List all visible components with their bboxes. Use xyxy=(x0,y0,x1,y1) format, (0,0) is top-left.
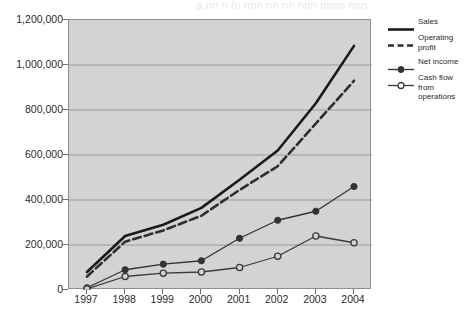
data-point-marker xyxy=(198,269,204,275)
legend-swatch-cash-flow-from-operations xyxy=(388,76,414,85)
legend-label: Net income xyxy=(418,57,470,67)
plot-svg xyxy=(69,20,372,290)
data-point-marker xyxy=(122,267,128,273)
data-point-marker xyxy=(160,270,166,276)
data-point-marker xyxy=(275,217,281,223)
y-axis-tick-label: 400,000 xyxy=(0,194,63,204)
x-axis-tick-label: 2004 xyxy=(328,293,378,305)
chart-legend: SalesOperating profitNet incomeCash flow… xyxy=(388,17,470,107)
y-axis-tick-label: 200,000 xyxy=(0,239,63,249)
legend-label: Operating profit xyxy=(418,33,470,52)
data-point-marker xyxy=(351,183,357,189)
data-point-marker xyxy=(236,264,242,270)
legend-swatch-operating-profit xyxy=(388,36,414,45)
data-point-marker xyxy=(198,258,204,264)
y-axis-tick-label: 800,000 xyxy=(0,104,63,114)
legend-item: Operating profit xyxy=(388,33,470,52)
data-point-marker xyxy=(313,233,319,239)
legend-label: Sales xyxy=(418,17,470,27)
data-point-marker xyxy=(275,253,281,259)
legend-item: Net income xyxy=(388,57,470,68)
y-axis-tick-labels: 0200,000400,000600,000800,0001,000,0001,… xyxy=(0,0,63,322)
data-point-marker xyxy=(160,261,166,267)
data-point-marker xyxy=(122,273,128,279)
line-chart-figure: 0200,000400,000600,000800,0001,000,0001,… xyxy=(0,0,470,322)
legend-swatch-net-income xyxy=(388,60,414,69)
x-axis-tick-labels: 19971998199920002001200220032004 xyxy=(0,293,470,313)
legend-label: Cash flow from operations xyxy=(418,73,470,102)
data-point-marker xyxy=(313,208,319,214)
y-axis-tick-label: 1,200,000 xyxy=(0,14,63,24)
y-axis-tick-label: 600,000 xyxy=(0,149,63,159)
legend-item: Cash flow from operations xyxy=(388,73,470,102)
data-point-marker xyxy=(236,235,242,241)
series-line-cash-flow-from-operations xyxy=(87,236,354,289)
legend-item: Sales xyxy=(388,17,470,28)
legend-swatch-sales xyxy=(388,20,414,29)
plot-area xyxy=(68,19,371,289)
y-axis-tick-label: 1,000,000 xyxy=(0,59,63,69)
data-point-marker xyxy=(351,240,357,246)
